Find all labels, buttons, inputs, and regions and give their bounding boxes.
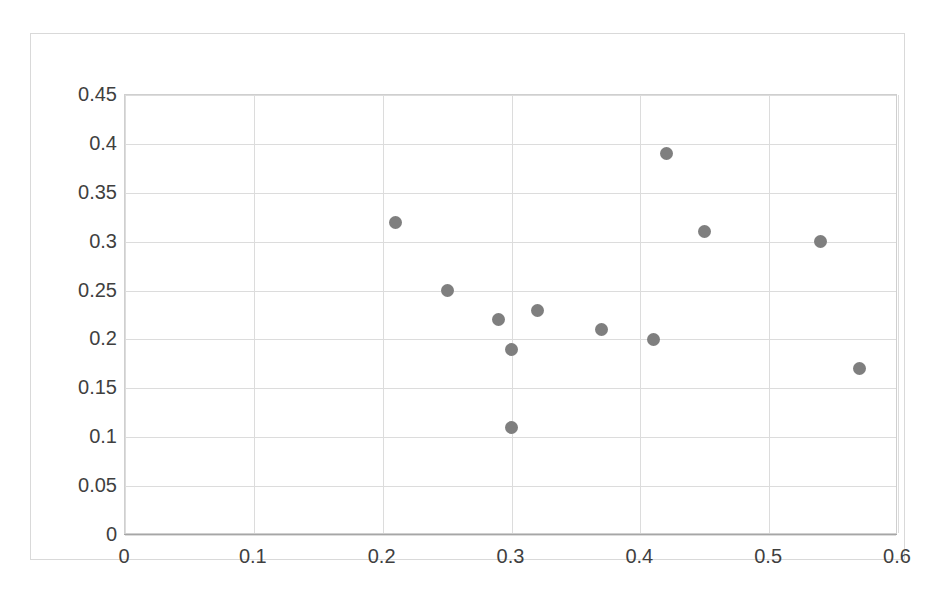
x-axis-tick-label: 0.4 (599, 546, 679, 566)
scatter-point[interactable] (647, 333, 660, 346)
y-axis-tick-label: 0.15 (57, 377, 117, 397)
gridline-vertical (254, 95, 255, 533)
y-axis-tick-label: 0.25 (57, 280, 117, 300)
scatter-point[interactable] (389, 216, 402, 229)
x-axis-tick-label: 0.1 (213, 546, 293, 566)
x-axis-tick-label: 0.6 (857, 546, 930, 566)
plot-area (124, 94, 897, 534)
y-axis-tick-label: 0.2 (57, 328, 117, 348)
scatter-point[interactable] (505, 421, 518, 434)
y-axis-tick-labels: 00.050.10.150.20.250.30.350.40.45 (51, 94, 117, 534)
scatter-point[interactable] (492, 313, 505, 326)
gridline-horizontal (125, 437, 896, 438)
gridline-horizontal (125, 95, 896, 96)
gridline-vertical (769, 95, 770, 533)
x-axis-tick-label: 0.5 (728, 546, 808, 566)
gridline-horizontal (125, 339, 896, 340)
gridline-horizontal (125, 388, 896, 389)
y-axis-tick-label: 0.05 (57, 475, 117, 495)
y-axis-tick-label: 0.45 (57, 84, 117, 104)
y-axis-tick-label: 0.4 (57, 133, 117, 153)
y-axis-tick-label: 0 (57, 524, 117, 544)
scatter-point[interactable] (531, 304, 544, 317)
x-axis-tick-labels: 00.10.20.30.40.50.6 (124, 546, 897, 576)
gridline-horizontal (125, 486, 896, 487)
gridline-vertical (898, 95, 899, 533)
gridline-vertical (383, 95, 384, 533)
y-axis-tick-label: 0.3 (57, 231, 117, 251)
gridline-horizontal (125, 193, 896, 194)
chart-frame: 00.050.10.150.20.250.30.350.40.45 00.10.… (30, 33, 905, 560)
gridline-horizontal (125, 291, 896, 292)
scatter-point[interactable] (660, 147, 673, 160)
x-axis-line (124, 534, 897, 535)
scatter-point[interactable] (505, 343, 518, 356)
scatter-point[interactable] (853, 362, 866, 375)
gridline-horizontal (125, 535, 896, 536)
scatter-point[interactable] (441, 284, 454, 297)
gridline-horizontal (125, 144, 896, 145)
gridline-vertical (640, 95, 641, 533)
gridline-horizontal (125, 242, 896, 243)
scatter-point[interactable] (814, 235, 827, 248)
gridline-vertical (125, 95, 126, 533)
scatter-point[interactable] (698, 225, 711, 238)
gridline-vertical (512, 95, 513, 533)
x-axis-tick-label: 0.2 (342, 546, 422, 566)
x-axis-tick-label: 0 (84, 546, 164, 566)
scatter-point[interactable] (595, 323, 608, 336)
y-axis-tick-label: 0.1 (57, 426, 117, 446)
y-axis-tick-label: 0.35 (57, 182, 117, 202)
x-axis-tick-label: 0.3 (471, 546, 551, 566)
